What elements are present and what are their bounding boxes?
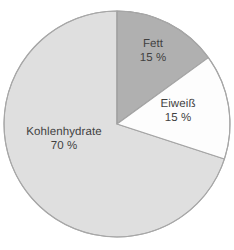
pie-label-kohlenhydrate: Kohlenhydrate 70 % <box>6 126 122 153</box>
pie-chart-figure: Fett 15 % Eiweiß 15 % Kohlenhydrate 70 % <box>0 0 234 250</box>
pie-label-eiweiss-name: Eiweiß <box>136 98 220 112</box>
pie-label-fett-value: 15 % <box>118 52 188 66</box>
pie-label-kohlenhydrate-name: Kohlenhydrate <box>6 126 122 140</box>
pie-label-fett-name: Fett <box>118 38 188 52</box>
pie-label-eiweiss-value: 15 % <box>136 112 220 126</box>
pie-label-kohlenhydrate-value: 70 % <box>6 140 122 154</box>
pie-label-eiweiss: Eiweiß 15 % <box>136 98 220 125</box>
pie-chart-svg <box>0 0 234 250</box>
pie-label-fett: Fett 15 % <box>118 38 188 65</box>
